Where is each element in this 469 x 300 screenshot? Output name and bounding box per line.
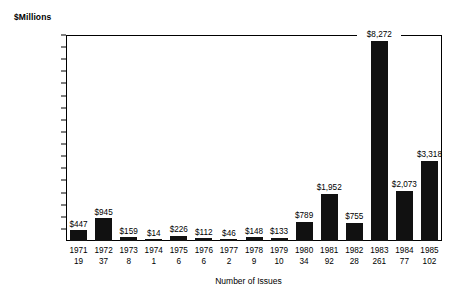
bar-value-label: $1,952: [317, 183, 342, 192]
bar-value-label: $3,318: [417, 150, 442, 159]
bar: [371, 41, 388, 241]
y-tick-mark: [61, 71, 66, 72]
bar-value-label: $148: [245, 227, 263, 236]
x-tick-issues: 2: [227, 257, 232, 266]
x-tick-issues: 28: [350, 257, 359, 266]
x-tick-issues: 19: [74, 257, 83, 266]
x-tick-issues: 9: [252, 257, 257, 266]
bar-value-label: $14: [147, 229, 161, 238]
y-tick-mark: [61, 144, 66, 145]
bar: [271, 238, 288, 241]
bar: [321, 194, 338, 241]
x-tick-issues: 261: [372, 257, 386, 266]
x-tick-issues: 92: [325, 257, 334, 266]
bar: [95, 218, 112, 241]
y-tick-mark: [61, 228, 66, 229]
y-tick-mark: [61, 216, 66, 217]
bar-value-label: $945: [94, 208, 112, 217]
y-tick-mark: [61, 131, 66, 132]
x-tick-year: 1973: [120, 246, 138, 255]
x-tick-year: 1979: [270, 246, 288, 255]
y-tick-mark: [61, 168, 66, 169]
x-tick-year: 1981: [320, 246, 338, 255]
y-tick-mark: [61, 119, 66, 120]
x-tick-year: 1975: [170, 246, 188, 255]
y-tick-mark: [61, 95, 66, 96]
bar-chart: $Millions 8,5008,0007,5007,0006,5006,000…: [0, 0, 469, 300]
y-tick-mark: [61, 59, 66, 60]
bar: [145, 239, 162, 241]
bar-value-label: $133: [270, 227, 288, 236]
x-axis-title-text: Number of Issues: [215, 276, 282, 286]
x-tick-year: 1983: [370, 246, 388, 255]
bar-value-label: $226: [170, 225, 188, 234]
bar-value-label: $755: [345, 212, 363, 221]
bar: [421, 161, 438, 241]
y-tick-mark: [61, 107, 66, 108]
bar: [296, 222, 313, 241]
bar: [246, 237, 263, 241]
x-tick-year: 1980: [295, 246, 313, 255]
x-tick-year: 1985: [420, 246, 438, 255]
x-tick-year: 1972: [94, 246, 112, 255]
x-tick-year: 1976: [195, 246, 213, 255]
y-tick-mark: [61, 83, 66, 84]
x-tick-year: 1971: [69, 246, 87, 255]
x-tick-issues: 37: [99, 257, 108, 266]
bar: [195, 238, 212, 241]
y-tick-mark: [61, 192, 66, 193]
bar-value-label: $789: [295, 211, 313, 220]
y-tick-mark: [61, 47, 66, 48]
bar: [396, 191, 413, 241]
y-tick-mark: [61, 204, 66, 205]
bar-value-label: $159: [120, 227, 138, 236]
bar: [170, 236, 187, 241]
bar-value-label: $447: [69, 220, 87, 229]
y-tick-mark: [61, 180, 66, 181]
x-tick-issues: 8: [126, 257, 131, 266]
top-frame-segment: [66, 35, 357, 36]
x-tick-issues: 77: [400, 257, 409, 266]
x-tick-issues: 102: [423, 257, 437, 266]
bar-value-label: $112: [195, 228, 213, 237]
bar: [120, 237, 137, 241]
x-tick-year: 1984: [395, 246, 413, 255]
y-axis-title: $Millions: [14, 12, 51, 22]
x-tick-year: 1974: [145, 246, 163, 255]
x-tick-issues: 6: [177, 257, 182, 266]
x-axis-title: Number of Issues: [0, 276, 469, 286]
x-tick-issues: 34: [300, 257, 309, 266]
y-tick-mark: [61, 156, 66, 157]
bar-value-label: $46: [222, 229, 236, 238]
bar-value-label: $2,073: [392, 180, 417, 189]
bar-value-label: $8,272: [367, 30, 392, 39]
top-frame-segment: [401, 35, 442, 36]
x-tick-year: 1982: [345, 246, 363, 255]
x-tick-issues: 1: [151, 257, 156, 266]
x-tick-year: 1978: [245, 246, 263, 255]
x-tick-issues: 6: [202, 257, 207, 266]
bar: [70, 230, 87, 241]
bar: [346, 223, 363, 241]
x-tick-issues: 10: [275, 257, 284, 266]
x-tick-year: 1977: [220, 246, 238, 255]
bar: [220, 239, 237, 241]
